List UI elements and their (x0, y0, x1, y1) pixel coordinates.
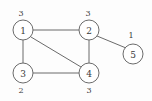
graph-node-4[interactable]: 4 (79, 63, 99, 83)
graph-node-1[interactable]: 1 (13, 20, 33, 40)
node-circle-5[interactable] (123, 44, 143, 64)
nodes-group: 12345 (13, 20, 143, 83)
node-circle-4[interactable] (79, 63, 99, 83)
node-weight-label-3: 2 (18, 86, 23, 95)
edges-group (23, 30, 126, 73)
graph-svg: 12345 33231 (0, 0, 152, 101)
edge-2-5[interactable] (97, 36, 126, 48)
graph-node-2[interactable]: 2 (79, 20, 99, 40)
vertex-weight-labels-group: 33231 (18, 9, 133, 95)
edge-1-4[interactable] (31, 37, 81, 67)
node-circle-1[interactable] (13, 20, 33, 40)
graph-diagram-canvas: 12345 33231 (0, 0, 152, 101)
node-circle-2[interactable] (79, 20, 99, 40)
node-weight-label-5: 1 (128, 31, 133, 40)
node-weight-label-1: 3 (18, 9, 23, 18)
node-weight-label-2: 3 (85, 9, 90, 18)
node-circle-3[interactable] (13, 63, 33, 83)
graph-node-3[interactable]: 3 (13, 63, 33, 83)
node-weight-label-4: 3 (86, 86, 91, 95)
graph-node-5[interactable]: 5 (123, 44, 143, 64)
